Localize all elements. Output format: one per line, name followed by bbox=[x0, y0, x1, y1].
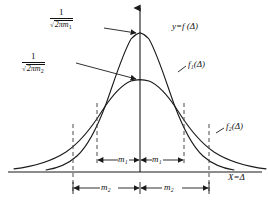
dim-label-m2-right: m₂ bbox=[164, 183, 174, 192]
peak-label-1-radicand: 2πm bbox=[55, 20, 69, 29]
curve-label-f1: f₁(Δ) bbox=[188, 60, 205, 69]
peak-label-2-numerator: 1 bbox=[22, 52, 45, 63]
x-axis-label: X=Δ bbox=[228, 173, 245, 182]
gaussian-comparison-figure: 1 √2πm1 1 √2πm2 y=f (Δ) f₁(Δ) f₂(Δ) m₁ m… bbox=[0, 0, 268, 213]
curve-label-main: y=f (Δ) bbox=[172, 22, 198, 31]
peak-label-2-denominator: √2πm2 bbox=[22, 63, 45, 74]
dim-label-m2-left: m₂ bbox=[101, 183, 111, 192]
leader-tick-f2 bbox=[216, 128, 224, 133]
leader-arrow-peak-2 bbox=[76, 63, 136, 79]
peak-value-label-f1: 1 √2πm1 bbox=[50, 8, 73, 30]
peak-label-1-denominator: √2πm1 bbox=[50, 19, 73, 30]
leader-arrow-peak-1 bbox=[104, 28, 136, 33]
peak-label-1-numerator: 1 bbox=[50, 8, 73, 19]
peak-label-2-subscript: 2 bbox=[41, 68, 44, 74]
dim-label-m1-right: m₁ bbox=[152, 155, 162, 164]
leader-tick-f1 bbox=[178, 66, 186, 72]
peak-label-1-subscript: 1 bbox=[69, 24, 72, 30]
peak-label-2-radicand: 2πm bbox=[27, 64, 41, 73]
dim-label-m1-left: m₁ bbox=[118, 155, 128, 164]
curve-label-f2: f₂(Δ) bbox=[226, 122, 243, 131]
peak-value-label-f2: 1 √2πm2 bbox=[22, 52, 45, 74]
